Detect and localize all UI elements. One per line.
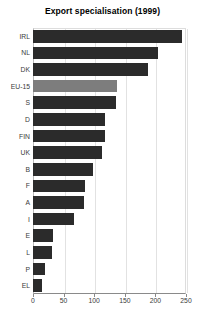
bar-p <box>33 263 45 276</box>
bar-el <box>33 279 42 292</box>
bar-nl <box>33 47 158 60</box>
x-axis-tick <box>94 294 95 297</box>
bar-row <box>33 47 186 60</box>
bar-row <box>33 113 186 126</box>
x-axis-tick-label: 250 <box>180 297 191 304</box>
x-axis-tick-label: 50 <box>60 297 68 304</box>
bar-row <box>33 246 186 259</box>
bar-a <box>33 196 84 209</box>
y-axis-tick-label: P <box>0 266 30 273</box>
y-axis-tick-label: I <box>0 216 30 223</box>
bar-row <box>33 96 186 109</box>
bar-row <box>33 80 186 93</box>
x-axis-tick <box>125 294 126 297</box>
y-axis-tick-label: NL <box>0 49 30 56</box>
y-axis-tick-label: IRL <box>0 33 30 40</box>
bar-row <box>33 229 186 242</box>
x-axis-tick-label: 150 <box>119 297 130 304</box>
y-axis-tick-label: A <box>0 199 30 206</box>
y-axis-labels: IRLNLDKEU-15SDFINUKBFAIELPEL <box>0 28 30 294</box>
bar-row <box>33 279 186 292</box>
bar-fin <box>33 130 105 143</box>
bar-dk <box>33 63 148 76</box>
bars-layer <box>33 28 186 294</box>
y-axis-tick-label: UK <box>0 149 30 156</box>
bar-f <box>33 180 85 193</box>
bar-row <box>33 63 186 76</box>
y-axis-tick-label: L <box>0 249 30 256</box>
bar-row <box>33 263 186 276</box>
x-axis-tick <box>33 294 34 297</box>
bar-e <box>33 229 53 242</box>
gridline <box>187 29 188 293</box>
x-axis-tick-label: 200 <box>150 297 161 304</box>
bar-s <box>33 96 116 109</box>
bar-d <box>33 113 105 126</box>
chart-container: Export specialisation (1999) IRLNLDKEU-1… <box>0 0 205 331</box>
chart-title: Export specialisation (1999) <box>0 6 205 16</box>
y-axis-tick-label: DK <box>0 66 30 73</box>
y-axis-tick-label: FIN <box>0 133 30 140</box>
y-axis-tick-label: B <box>0 166 30 173</box>
x-axis-tick-label: 100 <box>89 297 100 304</box>
bar-irl <box>33 30 182 43</box>
bar-l <box>33 246 52 259</box>
y-axis-tick-label: EL <box>0 282 30 289</box>
bar-i <box>33 213 74 226</box>
bar-row <box>33 130 186 143</box>
bar-row <box>33 163 186 176</box>
bar-row <box>33 146 186 159</box>
y-axis-tick-label: EU-15 <box>0 83 30 90</box>
x-axis-tick <box>186 294 187 297</box>
y-axis-tick-label: E <box>0 232 30 239</box>
y-axis-tick-label: F <box>0 182 30 189</box>
y-axis-tick-label: S <box>0 99 30 106</box>
bar-b <box>33 163 93 176</box>
bar-eu-15 <box>33 80 117 93</box>
x-axis-tick <box>64 294 65 297</box>
bar-row <box>33 196 186 209</box>
bar-uk <box>33 146 102 159</box>
bar-row <box>33 213 186 226</box>
bar-row <box>33 30 186 43</box>
x-axis-tick <box>155 294 156 297</box>
x-axis-tick-label: 0 <box>31 297 35 304</box>
y-axis-tick-label: D <box>0 116 30 123</box>
x-axis-labels: 050100150200250 <box>0 297 205 313</box>
bar-row <box>33 180 186 193</box>
